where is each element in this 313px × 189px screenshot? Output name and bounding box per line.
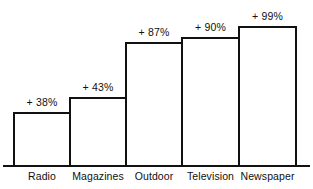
bar-television: [182, 38, 239, 166]
value-label-magazines: + 43%: [70, 81, 126, 93]
bar-chart: + 38% + 43% + 87% + 90% + 99% Radio Maga…: [0, 0, 313, 189]
category-label-radio: Radio: [14, 170, 70, 182]
value-label-outdoor: + 87%: [126, 26, 182, 38]
value-label-newspaper: + 99%: [239, 10, 296, 22]
category-label-television: Television: [180, 170, 241, 182]
category-label-outdoor: Outdoor: [126, 170, 182, 182]
bar-newspaper: [239, 27, 296, 166]
bar-radio: [14, 113, 70, 166]
category-label-newspaper: Newspaper: [238, 170, 297, 182]
value-label-television: + 90%: [182, 21, 239, 33]
bar-outdoor: [126, 43, 182, 166]
category-label-magazines: Magazines: [68, 170, 128, 182]
bar-magazines: [70, 98, 126, 166]
value-label-radio: + 38%: [14, 96, 70, 108]
